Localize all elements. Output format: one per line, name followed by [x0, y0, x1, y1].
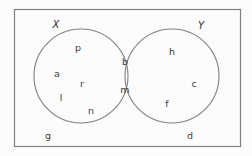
set-label-x: X	[53, 20, 60, 30]
element-l: l	[60, 93, 63, 103]
element-m: m	[120, 85, 129, 95]
element-c: c	[191, 79, 196, 89]
element-p: p	[75, 43, 81, 53]
venn-diagram-figure: XY parlnbmhcfgd	[0, 0, 252, 156]
element-d: d	[187, 131, 193, 141]
element-a: a	[54, 69, 60, 79]
element-h: h	[169, 47, 175, 57]
venn-diagram-canvas	[0, 0, 252, 156]
set-label-y: Y	[198, 21, 204, 31]
element-b: b	[122, 57, 128, 67]
circle-set-y	[125, 29, 219, 123]
element-g: g	[45, 131, 51, 141]
element-f: f	[165, 99, 168, 109]
element-n: n	[88, 106, 94, 116]
element-r: r	[80, 79, 84, 89]
